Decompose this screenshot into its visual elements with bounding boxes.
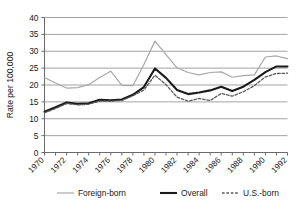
- y-tick-label-5: 5: [34, 131, 39, 141]
- chart-background: [0, 0, 302, 213]
- legend-label-overall: Overall: [181, 188, 208, 198]
- line-chart: 0510152025303540 19701972197419761978198…: [0, 0, 302, 213]
- y-tick-label-10: 10: [29, 114, 39, 124]
- legend-label-u-s-born: U.S.-born: [243, 188, 279, 198]
- legend-label-foreign-born: Foreign-born: [78, 188, 126, 198]
- y-tick-label-40: 40: [29, 13, 39, 23]
- y-tick-label-25: 25: [29, 63, 39, 73]
- y-tick-label-30: 30: [29, 46, 39, 56]
- chart-canvas: 0510152025303540 19701972197419761978198…: [0, 0, 302, 213]
- y-tick-label-35: 35: [29, 29, 39, 39]
- y-axis-label: Rate per 100,000: [5, 52, 15, 119]
- y-tick-label-15: 15: [29, 97, 39, 107]
- y-tick-label-20: 20: [29, 80, 39, 90]
